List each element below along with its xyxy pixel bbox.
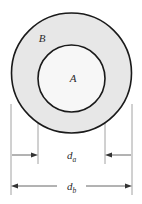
dimension-db-subscript: b	[72, 186, 76, 195]
dimension-da-subscript: a	[72, 155, 76, 164]
dimension-db: db	[11, 180, 132, 195]
dimension-da-left-arrowhead	[31, 152, 38, 157]
region-label-a: A	[69, 72, 77, 84]
figure-container: B A da db	[0, 0, 142, 204]
dimension-db-right-arrowhead	[125, 183, 132, 188]
dimension-da: da	[12, 149, 131, 164]
dimension-label-db: db	[67, 180, 77, 195]
dimension-label-da: da	[67, 149, 77, 164]
concentric-circles-diagram: B A da db	[0, 0, 142, 204]
region-label-b: B	[39, 32, 46, 44]
dimension-db-left-arrowhead	[11, 183, 18, 188]
dimension-da-right-arrowhead	[105, 152, 112, 157]
